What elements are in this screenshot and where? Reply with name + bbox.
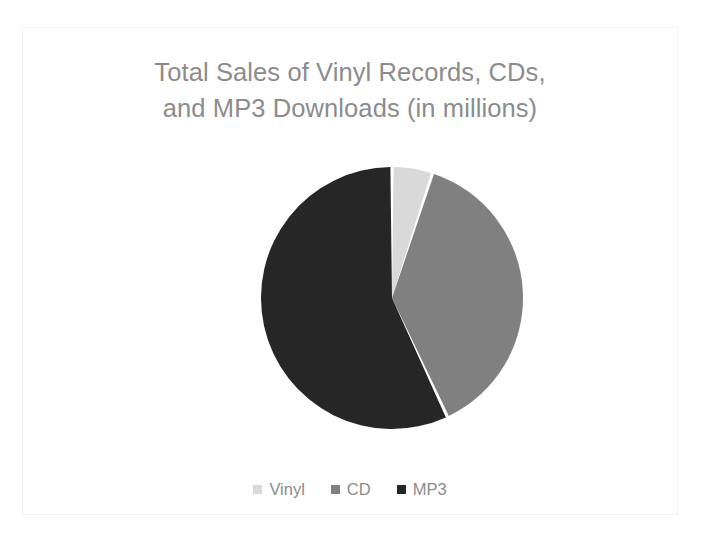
legend-label-cd: CD [347,480,371,498]
legend-item-cd[interactable]: CD [331,480,371,498]
legend-swatch-cd-icon [331,485,340,494]
chart-title: Total Sales of Vinyl Records, CDs, and M… [23,54,677,126]
chart-title-line-2: and MP3 Downloads (in millions) [163,94,537,122]
legend-swatch-vinyl-icon [253,485,262,494]
pie-chart-plot-area [237,153,547,443]
pie-chart-svg [237,153,547,443]
chart-legend: Vinyl CD MP3 [23,480,677,498]
pie-slice-group [261,167,523,429]
chart-container: Total Sales of Vinyl Records, CDs, and M… [22,27,678,515]
chart-title-line-1: Total Sales of Vinyl Records, CDs, [154,58,545,86]
legend-label-vinyl: Vinyl [269,480,304,498]
legend-item-vinyl[interactable]: Vinyl [253,480,304,498]
legend-item-mp3[interactable]: MP3 [397,480,447,498]
legend-swatch-mp3-icon [397,485,406,494]
legend-label-mp3: MP3 [413,480,447,498]
